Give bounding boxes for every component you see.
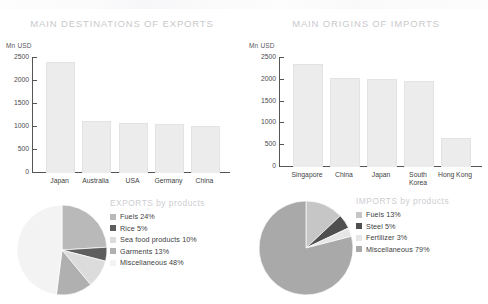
legend-color-swatch [110, 214, 116, 220]
imports-pie-chart [258, 200, 354, 296]
bar [367, 79, 397, 167]
imports-legend-rows: Fuels 13%Steel 5%Fertilizer 3%Miscellane… [356, 209, 449, 255]
y-axis-tick-label: 2500 [261, 53, 276, 60]
legend-color-swatch [110, 260, 116, 266]
pie-slice [62, 205, 107, 250]
y-axis-tick [33, 80, 37, 81]
imports-pie-panel: IMPORTS by products Fuels 13%Steel 5%Fer… [244, 190, 488, 304]
exports-pie-svg [16, 204, 108, 296]
y-axis-tick-label: 1000 [261, 118, 276, 125]
bar [155, 124, 184, 173]
y-axis-tick-label: 500 [18, 145, 29, 152]
exports-pie-chart [16, 204, 108, 296]
exports-legend-rows: Fuels 24%Rice 5%Sea food products 10%Gar… [110, 211, 205, 269]
y-axis-tick [33, 103, 37, 104]
y-axis-tick-label: 1500 [261, 97, 276, 104]
legend-item-label: Rice 5% [120, 224, 147, 233]
exports-bar-chart-panel: MAIN DESTINATIONS OF EXPORTS Mn USD 0500… [0, 0, 244, 190]
y-axis-tick-label: 1500 [14, 99, 29, 106]
y-axis-tick-label: 500 [265, 140, 276, 147]
imports-pie-legend: IMPORTS by products Fuels 13%Steel 5%Fer… [356, 196, 449, 255]
legend-color-swatch [356, 212, 362, 218]
y-axis-tick [280, 122, 284, 123]
infographic-page: MAIN DESTINATIONS OF EXPORTS Mn USD 0500… [0, 0, 488, 304]
y-axis-tick [33, 149, 37, 150]
imports-plot-area: 05001000150020002500SingaporeChinaJapanS… [244, 0, 488, 190]
bar [191, 126, 220, 173]
legend-item: Garments 13% [110, 246, 205, 258]
bar [82, 121, 111, 173]
y-axis-tick [280, 144, 284, 145]
y-axis-tick [280, 57, 284, 58]
y-axis-tick-label: 1000 [14, 122, 29, 129]
y-axis-tick-label: 0 [272, 162, 276, 169]
legend-color-swatch [356, 223, 362, 229]
legend-color-swatch [356, 246, 362, 252]
y-axis-tick [280, 79, 284, 80]
bar [46, 62, 75, 173]
legend-item-label: Miscellaneous 48% [120, 258, 184, 267]
y-axis-tick-label: 2000 [14, 76, 29, 83]
x-axis-category-label: China [182, 177, 227, 185]
y-axis-line [279, 57, 280, 167]
imports-bar-chart-panel: MAIN ORIGINS OF IMPORTS Mn USD 050010001… [244, 0, 488, 190]
legend-item-label: Garments 13% [120, 247, 169, 256]
y-axis-line [32, 57, 33, 173]
bar [441, 138, 471, 167]
exports-pie-panel: EXPORTS by products Fuels 24%Rice 5%Sea … [0, 190, 244, 304]
y-axis-tick [280, 101, 284, 102]
bar [293, 64, 323, 167]
bar [330, 78, 360, 167]
y-axis-tick-label: 0 [25, 168, 29, 175]
legend-color-swatch [110, 237, 116, 243]
legend-item: Fertilizer 3% [356, 232, 449, 244]
bar [404, 81, 434, 167]
legend-item: Steel 5% [356, 221, 449, 233]
legend-item: Miscellaneous 48% [110, 257, 205, 269]
y-axis-tick-label: 2000 [261, 75, 276, 82]
imports-pie-legend-title: IMPORTS by products [356, 196, 449, 206]
legend-color-swatch [110, 248, 116, 254]
legend-item: Fuels 24% [110, 211, 205, 223]
legend-item: Fuels 13% [356, 209, 449, 221]
legend-color-swatch [356, 235, 362, 241]
legend-item-label: Sea food products 10% [120, 235, 197, 244]
legend-item: Sea food products 10% [110, 234, 205, 246]
exports-pie-legend: EXPORTS by products Fuels 24%Rice 5%Sea … [110, 198, 205, 269]
legend-item-label: Steel 5% [366, 222, 396, 231]
legend-item: Miscellaneous 79% [356, 244, 449, 256]
bar [119, 123, 148, 173]
legend-item-label: Fuels 24% [120, 212, 155, 221]
legend-item: Rice 5% [110, 223, 205, 235]
legend-item-label: Miscellaneous 79% [366, 245, 430, 254]
legend-color-swatch [110, 225, 116, 231]
y-axis-tick-label: 2500 [14, 53, 29, 60]
legend-item-label: Fertilizer 3% [366, 233, 407, 242]
exports-plot-area: 05001000150020002500JapanAustraliaUSAGer… [0, 0, 244, 190]
pie-slice [17, 205, 62, 295]
legend-item-label: Fuels 13% [366, 210, 401, 219]
y-axis-tick [33, 57, 37, 58]
exports-pie-legend-title: EXPORTS by products [110, 198, 205, 208]
imports-pie-svg [258, 200, 354, 296]
x-axis-category-label: Hong Kong [432, 171, 478, 179]
y-axis-tick [33, 126, 37, 127]
